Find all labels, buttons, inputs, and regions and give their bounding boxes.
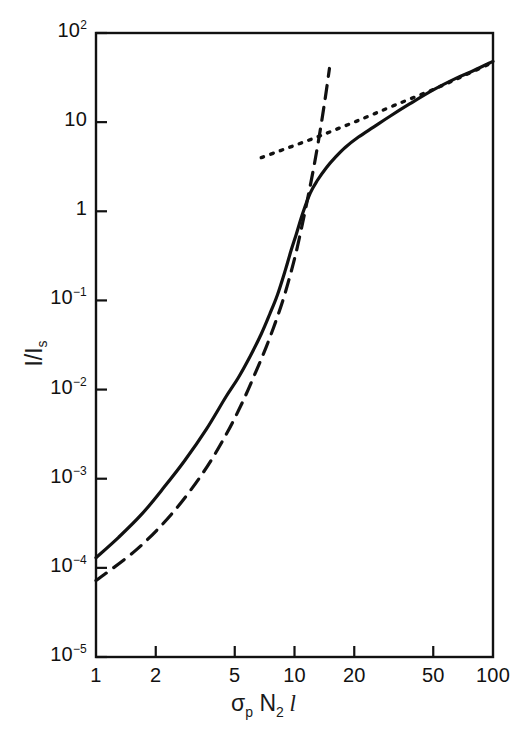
data-curves: [96, 61, 493, 580]
y-tick-label-5: 10−3: [50, 465, 87, 488]
y-tick-label-3: 10−1: [50, 286, 87, 309]
y-tick-label-2: 1: [76, 197, 87, 220]
x-tick-label-5: 50: [403, 664, 463, 687]
figure-root: 10210110−110−210−310−410−5125102050100 I…: [0, 0, 527, 739]
x-tick-label-0: 1: [66, 664, 126, 687]
x-tick-label-2: 5: [205, 664, 265, 687]
y-tick-label-0: 102: [57, 19, 87, 42]
y-tick-label-1: 10: [64, 108, 87, 131]
plot-frame: [96, 33, 493, 657]
x-tick-label-6: 100: [463, 664, 523, 687]
x-tick-label-4: 20: [324, 664, 384, 687]
y-axis-title: I/Is: [21, 334, 48, 374]
curve-small-signal-exponential: [96, 68, 329, 580]
y-tick-label-4: 10−2: [50, 376, 87, 399]
axes-frame: [96, 33, 493, 657]
axis-ticks: [96, 33, 433, 657]
curve-saturated-asymptote: [261, 62, 493, 157]
x-tick-label-3: 10: [265, 664, 325, 687]
x-axis-title: σp N2 l: [0, 690, 527, 717]
x-axis-title-text: σp N2 l: [231, 690, 296, 716]
y-tick-label-6: 10−4: [50, 554, 87, 577]
x-tick-label-1: 2: [126, 664, 186, 687]
curve-saturated-output: [96, 61, 493, 557]
y-tick-label-7: 10−5: [50, 643, 87, 666]
y-axis-title-text: I/Is: [21, 340, 47, 366]
